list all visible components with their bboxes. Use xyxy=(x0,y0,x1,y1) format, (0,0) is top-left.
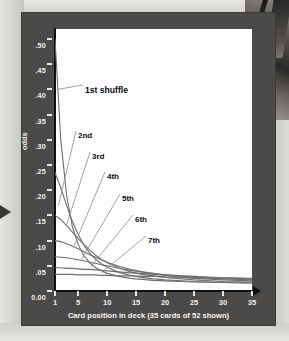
x-axis-tick xyxy=(164,291,166,296)
y-axis-tick-label: .35 xyxy=(22,110,46,128)
y-axis-tick-label-text: .25 xyxy=(35,167,46,176)
series-label-3rd: 3rd xyxy=(92,152,104,161)
y-axis-tick-label: .50 xyxy=(22,34,46,52)
leader-line-4 xyxy=(74,172,105,246)
y-axis-tick-label: .05 xyxy=(22,261,46,279)
annotation-leader-lines xyxy=(55,29,252,291)
x-axis-tick xyxy=(77,291,79,296)
leader-line-5 xyxy=(82,194,120,259)
y-axis-tick-label-text: .05 xyxy=(35,268,46,277)
x-axis-tick xyxy=(251,291,253,296)
y-axis-tick-label-text: .40 xyxy=(35,91,46,100)
page-paper-bottom-edge xyxy=(0,323,289,341)
series-label-6th: 6th xyxy=(135,215,147,224)
y-axis-tick-label: .15 xyxy=(22,210,46,228)
y-axis-tick xyxy=(47,189,52,191)
figure-page: .50.45.40.35.30.25.20.15.10.050.00 15101… xyxy=(0,0,289,341)
leader-line-7 xyxy=(101,236,146,273)
y-axis-tick-label: 0.00 xyxy=(22,286,46,304)
y-axis-tick-label: .45 xyxy=(22,59,46,77)
y-axis-tick-label-text: .30 xyxy=(35,142,46,151)
x-axis-tick-label: 1 xyxy=(53,298,57,307)
x-axis-tick-label: 10 xyxy=(103,298,111,307)
y-axis-tick-label-text: .50 xyxy=(35,41,46,50)
y-axis-tick xyxy=(47,114,52,116)
x-axis-tick-label: 30 xyxy=(219,298,227,307)
y-axis-tick xyxy=(47,164,52,166)
y-axis-tick xyxy=(47,63,52,65)
x-axis-tick-label: 35 xyxy=(248,298,256,307)
y-axis-tick-label: .25 xyxy=(22,160,46,178)
x-axis-title: Card position in deck (35 cards of 52 sh… xyxy=(22,311,275,320)
leader-line-2 xyxy=(58,131,76,205)
y-axis-tick xyxy=(47,265,52,267)
y-axis-tick-label: .40 xyxy=(22,84,46,102)
y-axis-tick-label-text: .20 xyxy=(35,192,46,201)
y-axis-tick xyxy=(47,88,52,90)
leader-line-1 xyxy=(57,85,83,89)
y-axis-tick xyxy=(47,240,52,242)
x-axis-arrow-icon xyxy=(253,286,261,296)
leader-line-6 xyxy=(90,215,133,267)
y-axis-tick xyxy=(47,139,52,141)
page-paper-left-edge xyxy=(0,0,24,341)
series-label-4th: 4th xyxy=(107,172,119,181)
x-axis-tick-label: 25 xyxy=(190,298,198,307)
y-axis-tick xyxy=(47,214,52,216)
x-axis-tick-label: 20 xyxy=(161,298,169,307)
y-axis-tick xyxy=(47,290,52,292)
x-axis-tick xyxy=(222,291,224,296)
y-axis-tick-label-text: .35 xyxy=(35,117,46,126)
left-arrow-marker-icon xyxy=(0,205,11,219)
y-axis-tick-label: .20 xyxy=(22,185,46,203)
y-axis-tick-label-text: .45 xyxy=(35,66,46,75)
x-axis-tick-label: 15 xyxy=(132,298,140,307)
series-label-1st-shuffle: 1st shuffle xyxy=(85,85,128,95)
x-axis-tick xyxy=(106,291,108,296)
x-axis-tick xyxy=(193,291,195,296)
series-label-7th: 7th xyxy=(148,236,160,245)
y-axis-tick-label-text: 0.00 xyxy=(31,293,46,302)
series-label-5th: 5th xyxy=(122,194,134,203)
series-label-2nd: 2nd xyxy=(78,131,92,140)
x-axis-tick xyxy=(135,291,137,296)
y-axis-tick-label: .10 xyxy=(22,236,46,254)
y-axis-title: odds xyxy=(20,132,29,150)
y-axis-tick-label-text: .15 xyxy=(35,217,46,226)
y-axis-tick xyxy=(47,38,52,40)
x-axis-tick-label: 5 xyxy=(76,298,80,307)
x-axis-tick xyxy=(54,291,56,296)
y-axis-tick-label-text: .10 xyxy=(35,243,46,252)
